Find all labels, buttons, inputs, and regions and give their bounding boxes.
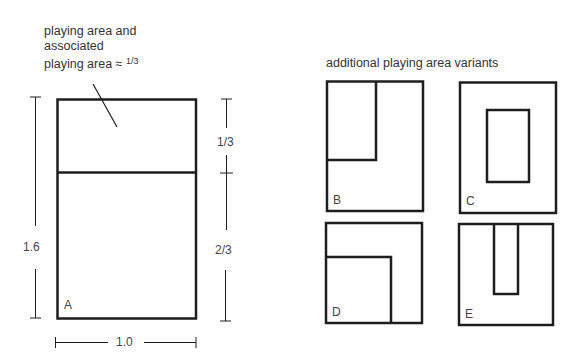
callout-text: playing area and associated playing area… [44,24,138,72]
dim-height-label: 1.6 [23,240,40,254]
callout-fraction: 1/3 [126,56,139,66]
variant-b-label: B [333,193,341,207]
callout-leader-line [93,84,117,127]
variant-e [459,224,553,325]
callout-line-1: playing area and [44,24,138,39]
dimension-height [30,97,41,318]
variant-e-label: E [465,307,473,321]
variant-b [327,82,423,212]
figure-a-label: A [64,298,72,312]
figure-a [30,84,233,348]
dim-width-label: 1.0 [116,335,133,349]
dim-bottom-section-label: 2/3 [215,243,232,257]
variant-d-label: D [332,305,341,319]
callout-line-3: playing area ≈ 1/3 [44,54,138,72]
callout-line-2: associated [44,39,138,54]
callout-line-3-prefix: playing area ≈ [44,57,126,71]
variant-c-label: C [466,194,475,208]
variants-title: additional playing area variants [326,56,498,71]
dim-top-section-label: 1/3 [217,135,234,149]
figure-a-outline [58,100,197,319]
dimension-sections [220,99,233,321]
